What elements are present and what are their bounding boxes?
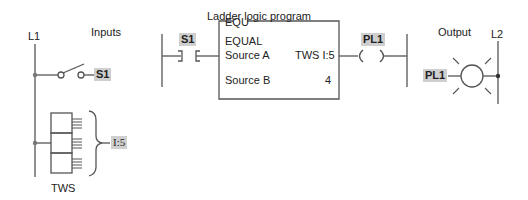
- source-a-label: Source A: [225, 49, 270, 61]
- equ-name: EQUAL: [225, 35, 262, 47]
- ladder-program-title: Ladder logic program: [207, 10, 311, 22]
- coil-pl1-tag: PL1: [361, 33, 385, 46]
- tws-digit-3: [51, 153, 72, 173]
- pilot-light-bulb: [461, 65, 483, 87]
- tws-label: TWS: [51, 182, 75, 194]
- l2-label: L2: [491, 28, 503, 40]
- s1-input-tag: S1: [94, 68, 111, 81]
- inputs-label: Inputs: [91, 26, 121, 38]
- source-a-value: TWS I:5: [295, 49, 335, 61]
- source-b-label: Source B: [225, 74, 270, 86]
- coil-left-arc: [360, 50, 364, 62]
- switch-terminal-right: [78, 72, 84, 78]
- coil-right-arc: [380, 50, 384, 62]
- tws-address-tag: I:5: [111, 136, 127, 149]
- junction-dot-l2: [496, 74, 500, 78]
- tws-digit-1: [51, 113, 72, 133]
- source-b-value: 4: [325, 74, 331, 86]
- contact-s1-tag: S1: [179, 33, 196, 46]
- tws-brace: [89, 111, 102, 176]
- output-label: Output: [438, 26, 471, 38]
- pilot-light-tag: PL1: [423, 69, 447, 82]
- junction-dot-tws: [33, 141, 37, 145]
- equ-mnemonic: EQU: [225, 16, 249, 28]
- tws-digit-2: [51, 133, 72, 153]
- junction-dot-s1: [33, 73, 37, 77]
- l1-label: L1: [28, 30, 40, 42]
